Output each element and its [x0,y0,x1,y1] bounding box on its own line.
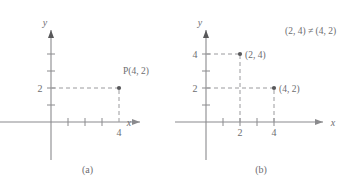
x-axis-label-b: x [330,117,336,128]
y-axis-arrowhead-a [48,30,54,38]
data-point-2-4 [238,52,242,56]
point-label-4-2: (4, 2) [279,84,300,95]
x-axis-arrowhead-a [132,119,140,125]
x-axis-arrowhead-b [315,119,323,125]
x-tick-label-4-a: 4 [117,127,122,138]
x-tick-label-4-b: 4 [272,127,277,138]
panel-caption-a: (a) [0,164,175,175]
y-axis-label-b: y [197,17,203,28]
panel-a: x y 4 2 P(4, 2) (a) [0,0,175,190]
data-point-p [117,86,121,90]
y-tick-label-4-b: 4 [193,49,198,60]
data-point-4-2 [272,86,276,90]
coordinate-plane-b: x y 2 4 2 4 (2, 4) (4, 2) (2, 4) ≠ (4, 2… [175,0,347,160]
relation-annotation: (2, 4) ≠ (4, 2) [285,26,336,37]
coordinate-plane-a: x y 4 2 P(4, 2) [0,0,175,160]
y-tick-label-2-b: 2 [193,83,198,94]
y-axis-arrowhead-b [203,30,209,38]
y-axis-label-a: y [42,17,48,28]
y-tick-label-2-a: 2 [38,83,43,94]
point-label-p: P(4, 2) [123,66,149,77]
x-axis-label-a: x [126,117,132,128]
panel-b: x y 2 4 2 4 (2, 4) (4, 2) (2, 4) ≠ (4, 2… [175,0,347,190]
x-tick-label-2-b: 2 [238,127,243,138]
figure-root: x y 4 2 P(4, 2) (a) [0,0,347,190]
panel-caption-b: (b) [175,164,347,175]
point-label-2-4: (2, 4) [245,50,266,61]
